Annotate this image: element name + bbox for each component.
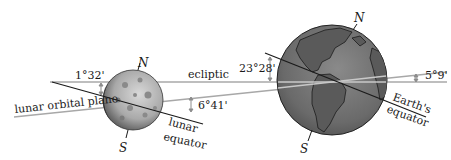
- angle-label-1-32: 1°32': [75, 69, 105, 82]
- diagram-canvas: N S N S 1°32': [0, 0, 451, 160]
- earth-south-label: S: [300, 142, 308, 156]
- angle-arrow-6-41: [189, 97, 193, 112]
- moon-axis-south: [126, 130, 128, 138]
- moon-north-label: N: [137, 56, 149, 70]
- angle-arrow-5-9: [414, 74, 418, 82]
- ecliptic-label: ecliptic: [188, 68, 229, 81]
- earth-axis-south: [308, 130, 312, 141]
- lunar-orbital-plane-label: lunar orbital plane: [14, 92, 119, 116]
- lunar-equator-label-2: equator: [162, 130, 208, 152]
- moon-south-label: S: [119, 141, 127, 155]
- angle-label-5-9: 5°9': [425, 69, 448, 82]
- earth-north-label: N: [353, 11, 365, 25]
- angle-label-23-28: 23°28': [239, 62, 276, 75]
- angle-label-6-41: 6°41': [198, 99, 228, 112]
